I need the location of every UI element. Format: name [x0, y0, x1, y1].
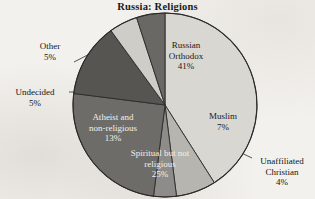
slice-label-russian-orthodox: Russian Orthodox 41% — [146, 40, 226, 72]
slice-label-spiritual-but-not-religious: Spiritual but not religious 25% — [113, 148, 207, 180]
pie-slice-spiritual-but-not-religious — [73, 93, 165, 196]
slice-label-atheist-and-non-religious: Atheist and non-religious 13% — [72, 112, 154, 144]
slice-label-line1: Unaffiliated — [250, 156, 314, 167]
slice-label-line1: Russian — [146, 40, 226, 51]
slice-label-line2: Orthodox — [146, 51, 226, 62]
slice-value: 5% — [2, 98, 68, 109]
slice-value: 25% — [113, 169, 207, 180]
slice-value: 13% — [72, 133, 154, 144]
slice-label-line2: Christian — [250, 167, 314, 178]
slice-label-undecided: Undecided 5% — [2, 87, 68, 108]
slice-label-line2: non-religious — [72, 123, 154, 134]
slice-label-line1: Undecided — [2, 87, 68, 98]
slice-label-line1: Muslim — [196, 111, 250, 122]
slice-label-line1: Atheist and — [72, 112, 154, 123]
slice-label-muslim: Muslim 7% — [196, 111, 250, 132]
slice-label-line1: Other — [28, 41, 72, 52]
chart-page: Russia: Religions Russian Orthodox 41% M… — [0, 0, 315, 199]
slice-value: 4% — [250, 177, 314, 188]
slice-value: 41% — [146, 61, 226, 72]
page-title: Russia: Religions — [0, 1, 315, 12]
slice-label-other: Other 5% — [28, 41, 72, 62]
slice-value: 7% — [196, 122, 250, 133]
slice-label-line2: religious — [113, 159, 207, 170]
slice-label-line1: Spiritual but not — [113, 148, 207, 159]
slice-value: 5% — [28, 52, 72, 63]
slice-label-unaffiliated-christian: Unaffiliated Christian 4% — [250, 156, 314, 188]
